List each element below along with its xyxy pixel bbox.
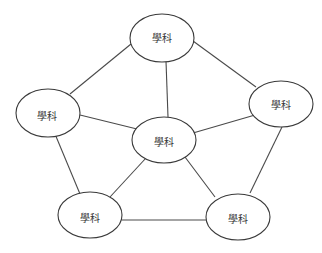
edge-center-bottom-left — [110, 158, 146, 197]
edge-center-bottom-right — [185, 157, 215, 197]
edge-top-center — [166, 61, 168, 117]
node-bottom-right-label: 學科 — [228, 213, 248, 225]
edge-right-bottom-right — [250, 127, 282, 193]
node-center: 學科 — [132, 117, 196, 163]
node-center-label: 學科 — [154, 136, 174, 148]
node-bottom-right: 學科 — [206, 194, 270, 240]
node-top: 學科 — [130, 14, 194, 62]
edge-top-right — [193, 41, 256, 87]
node-left-label: 學科 — [37, 110, 57, 122]
node-right: 學科 — [249, 81, 313, 127]
node-left: 學科 — [16, 89, 80, 137]
edge-top-left — [70, 44, 131, 94]
node-right-label: 學科 — [271, 99, 291, 111]
edge-left-bottom-left — [55, 134, 80, 194]
node-top-label: 學科 — [152, 32, 172, 44]
node-bottom-left-label: 學科 — [80, 212, 100, 224]
edge-left-center — [80, 115, 137, 129]
subject-network-diagram: 學科 學科 學科 學科 學科 學科 — [0, 0, 322, 253]
node-bottom-left: 學科 — [58, 192, 122, 238]
edge-right-center — [193, 115, 255, 133]
